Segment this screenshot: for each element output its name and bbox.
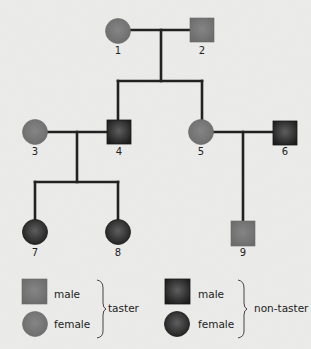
female-taster-symbol [23, 120, 48, 145]
legend-female-taster-symbol [23, 312, 48, 337]
individual-label: 2 [199, 45, 205, 56]
male-non-taster-symbol [273, 121, 297, 145]
female-taster-symbol [189, 120, 214, 145]
legend-male-taster-symbol [22, 279, 47, 304]
legend-group-label: taster [108, 302, 140, 314]
male-taster-symbol [190, 18, 214, 42]
legend-male-non-taster-symbol [165, 279, 190, 304]
male-non-taster-symbol [107, 120, 131, 144]
legend-male-label: male [54, 288, 80, 300]
individual-label: 1 [115, 45, 121, 56]
legend-female-label: female [198, 318, 234, 330]
individual-label: 4 [116, 146, 122, 157]
individual-label: 6 [282, 146, 288, 157]
legend-female-label: female [54, 318, 90, 330]
legend-male-label: male [198, 288, 224, 300]
female-non-taster-symbol [106, 220, 131, 245]
male-taster-symbol [231, 221, 255, 246]
individual-label: 8 [115, 247, 121, 258]
pedigree-diagram: 1 2 3 4 5 6 7 8 9 male [0, 0, 311, 349]
individual-label: 9 [240, 247, 246, 258]
individual-label: 3 [32, 146, 38, 157]
legend-group-label: non-taster [254, 302, 309, 314]
female-taster-symbol [106, 19, 131, 44]
female-non-taster-symbol [23, 220, 48, 245]
individual-label: 5 [198, 146, 204, 157]
individual-label: 7 [32, 247, 38, 258]
legend-female-non-taster-symbol [165, 312, 190, 337]
